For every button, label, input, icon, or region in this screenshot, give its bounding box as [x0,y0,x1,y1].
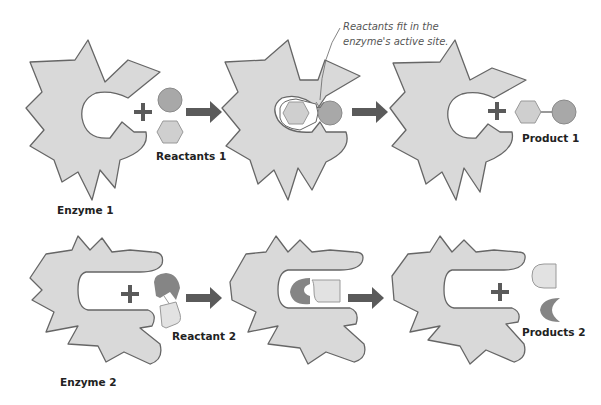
bound-reactant-2 [290,278,340,304]
plus-icon [488,102,506,120]
annotation-active-site: Reactants fit in the enzyme's active sit… [343,19,449,49]
enzyme-1-stage-1 [26,40,160,200]
arrow-right-icon [186,101,222,123]
enzyme-1-label: Enzyme 1 [57,204,114,216]
reactants-1-label: Reactants 1 [156,150,226,162]
annotation-line-2: enzyme's active site. [343,34,449,49]
arrow-right-icon [352,101,388,123]
product-2-light-piece [532,264,556,288]
enzyme-2-label: Enzyme 2 [60,376,117,388]
product-2-dark-piece [540,298,560,322]
bound-hexagon [283,102,309,124]
enzyme-2-stage-1 [30,236,163,364]
reactant-circle [158,88,182,112]
plus-icon [134,103,152,121]
plus-icon [491,283,509,301]
reactant-2-label: Reactant 2 [172,330,236,342]
enzyme-2-stage-3 [392,236,525,364]
enzyme-reaction-diagram [0,0,601,405]
plus-icon [121,285,139,303]
reactant-2-molecule [154,273,181,328]
arrow-right-icon [348,287,384,309]
reactant-hexagon [157,121,183,143]
products-2-label: Products 2 [522,326,586,338]
arrow-right-icon [186,287,222,309]
enzyme-1-stage-3 [390,40,526,200]
bound-circle [318,101,342,125]
product-1-molecule [515,100,576,124]
annotation-line-1: Reactants fit in the [343,19,449,34]
product-1-label: Product 1 [522,132,579,144]
